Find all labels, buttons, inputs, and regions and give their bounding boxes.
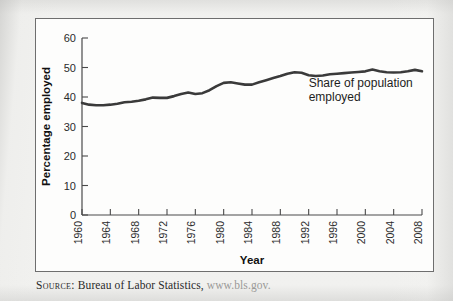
source-note: Source: Bureau of Labor Statistics, www.… <box>36 279 271 291</box>
y-axis-title: Percentage employed <box>40 67 52 186</box>
x-tick-label: 1984 <box>242 221 254 245</box>
source-body: Bureau of Labor Statistics, <box>75 279 207 291</box>
y-tick-label: 30 <box>64 121 76 133</box>
x-tick-label: 1972 <box>157 221 169 245</box>
y-tick-label: 0 <box>70 209 76 221</box>
y-tick-label: 50 <box>64 62 76 74</box>
x-tick-label: 1964 <box>100 221 112 245</box>
x-tick-label: 1968 <box>129 221 141 245</box>
x-tick-label: 1960 <box>72 221 84 245</box>
x-axis-title: Year <box>240 254 265 266</box>
source-label: Source: <box>36 279 75 291</box>
y-tick-label: 40 <box>64 91 76 103</box>
x-tick-label: 2008 <box>412 221 424 245</box>
y-tick-label: 60 <box>64 32 76 44</box>
x-tick-label: 1980 <box>214 221 226 245</box>
figure-frame: 0102030405060196019641968197219761980198… <box>35 18 434 272</box>
x-tick-label: 1992 <box>299 221 311 245</box>
x-tick-label: 2000 <box>355 221 367 245</box>
y-tick-label: 20 <box>64 150 76 162</box>
x-tick-label: 1976 <box>185 221 197 245</box>
series-annotation: Share of populationemployed <box>309 76 413 104</box>
source-url-link[interactable]: www.bls.gov. <box>207 279 271 291</box>
line-chart: 0102030405060196019641968197219761980198… <box>36 19 433 271</box>
x-tick-label: 2004 <box>384 221 396 245</box>
x-tick-label: 1996 <box>327 221 339 245</box>
y-tick-label: 10 <box>64 180 76 192</box>
x-tick-label: 1988 <box>270 221 282 245</box>
